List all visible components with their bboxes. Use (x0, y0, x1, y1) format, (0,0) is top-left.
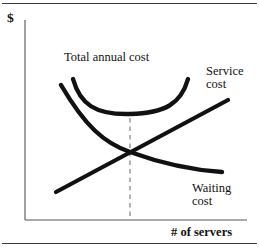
waiting-cost-label-line1: Waiting (192, 181, 231, 195)
y-axis-label: $ (7, 11, 14, 25)
x-axis-label: # of servers (171, 226, 232, 239)
service-cost-label: Service cost (206, 65, 256, 91)
figure-container: $ # of servers Total annual cost Service… (0, 0, 259, 252)
service-cost-label-line1: Service (206, 64, 243, 78)
waiting-cost-label-line2: cost (192, 195, 250, 208)
waiting-cost-curve (61, 85, 222, 172)
total-annual-cost-label: Total annual cost (64, 51, 149, 64)
waiting-cost-label: Waiting cost (192, 182, 250, 208)
cost-tradeoff-plot (0, 0, 259, 252)
total-annual-cost-curve (73, 79, 188, 114)
service-cost-label-line2: cost (206, 78, 256, 91)
